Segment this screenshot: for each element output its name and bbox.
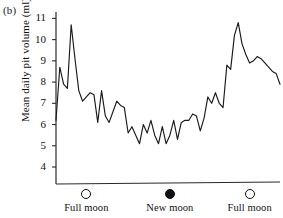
x-axis-line bbox=[56, 182, 280, 184]
y-tick-label: 4 bbox=[30, 160, 46, 172]
x-axis-category-label: Full moon bbox=[64, 202, 108, 213]
full-moon-marker-icon bbox=[81, 189, 91, 199]
y-tick-label: 9 bbox=[30, 54, 46, 66]
y-tick-label: 6 bbox=[30, 118, 46, 130]
y-tick-label: 10 bbox=[30, 33, 46, 45]
y-tick-label: 5 bbox=[30, 139, 46, 151]
full-moon-marker-icon bbox=[245, 189, 255, 199]
x-axis-category-label: New moon bbox=[146, 202, 193, 213]
chart-axes bbox=[52, 12, 280, 184]
y-tick-label: 11 bbox=[30, 11, 46, 23]
x-axis-category-label: Full moon bbox=[227, 202, 271, 213]
new-moon-marker-icon bbox=[165, 189, 175, 199]
y-tick-label: 7 bbox=[30, 96, 46, 108]
figure-panel-b: (b) Mean daily pit volume (ml) 456789101… bbox=[0, 0, 283, 218]
panel-label: (b) bbox=[3, 4, 16, 16]
y-tick-label: 8 bbox=[30, 75, 46, 87]
data-series-line bbox=[56, 23, 280, 144]
